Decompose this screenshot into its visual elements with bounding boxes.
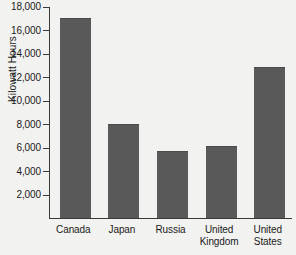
x-axis-tick-label-line: Russia [156,224,186,235]
x-axis-tick-label-line: United [205,224,233,235]
x-axis-tick-label-line: Japan [109,224,136,235]
x-axis-tick-label-line: Kingdom [195,236,244,248]
y-axis-tick-label: 18,000 [0,2,41,12]
bar [108,124,139,218]
plot-area [49,7,292,219]
x-axis-tick-label: Russia [146,224,195,236]
bar-chart-figure: Kilowatt Hours 2,0004,0006,0008,00010,00… [0,0,296,255]
bar [206,146,237,218]
x-axis-tick-label-line: Canada [56,224,90,235]
bar [254,67,285,218]
y-axis-tick-label: 4,000 [0,167,41,177]
y-axis-tick-label: 14,000 [0,49,41,59]
y-axis-tick-label: 8,000 [0,120,41,130]
x-axis-tick-label: Japan [98,224,147,236]
x-axis-tick-label: UnitedKingdom [195,224,244,247]
y-axis-tick-label: 12,000 [0,73,41,83]
x-axis-tick-label-line: United [254,224,282,235]
y-axis-tick-label: 2,000 [0,190,41,200]
bar [60,18,91,218]
y-axis-tick-label: 16,000 [0,26,41,36]
y-axis-tick-label: 10,000 [0,96,41,106]
x-axis-tick-label-line: States [243,236,292,248]
bar [157,151,188,218]
x-axis-tick-label: Canada [49,224,98,236]
x-axis-tick-label: UnitedStates [243,224,292,247]
y-axis-tick-label: 6,000 [0,143,41,153]
